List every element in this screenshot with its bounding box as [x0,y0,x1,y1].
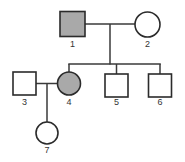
individual-3[interactable]: 3 [13,72,36,107]
individual-2[interactable]: 2 [135,12,160,49]
individual-4[interactable]: 4 [58,72,81,107]
symbol-female-affected-4[interactable] [58,72,81,95]
individual-label-7: 7 [44,145,49,155]
symbol-female-unaffected-7[interactable] [36,122,58,144]
symbol-male-unaffected-3[interactable] [13,72,36,95]
individual-label-6: 6 [157,97,162,107]
individual-label-3: 3 [22,97,27,107]
individual-7[interactable]: 7 [36,122,58,155]
symbol-female-unaffected-2[interactable] [135,12,160,37]
symbol-male-unaffected-6[interactable] [149,74,172,97]
individual-label-4: 4 [66,97,71,107]
individual-5[interactable]: 5 [105,74,128,107]
individual-6[interactable]: 6 [149,74,172,107]
pedigree-chart: 1 2 3 4 5 6 7 [0,0,185,162]
individual-1[interactable]: 1 [60,12,85,50]
symbol-male-affected-1[interactable] [60,12,85,37]
pedigree-canvas: 1 2 3 4 5 6 7 [0,0,185,162]
connection-lines [36,24,161,123]
individual-label-1: 1 [70,39,75,49]
individual-label-5: 5 [114,97,119,107]
symbol-male-unaffected-5[interactable] [105,74,128,97]
individual-label-2: 2 [145,39,150,49]
